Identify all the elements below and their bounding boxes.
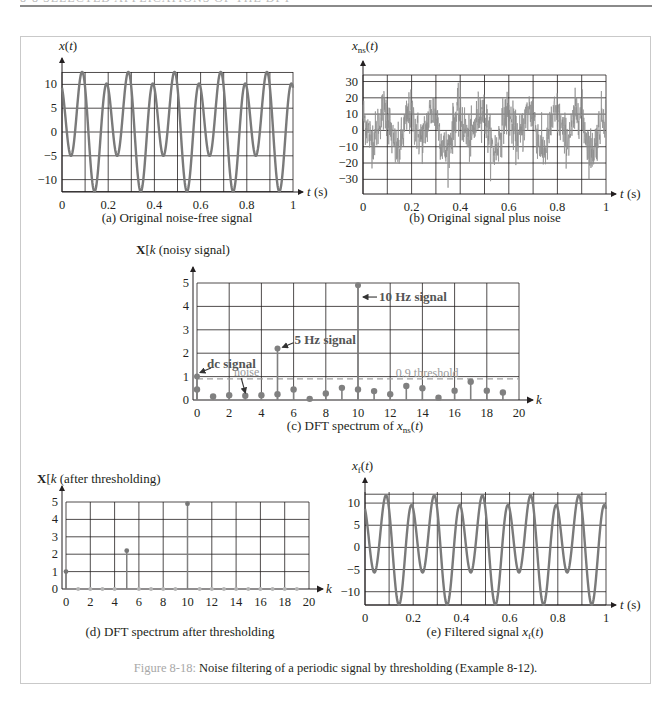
plot-caption: (d) DFT spectrum after thresholding — [86, 624, 275, 639]
x-axis-label: t (s) — [620, 186, 641, 201]
annotation-10hz-signal: 10 Hz signal — [379, 289, 447, 304]
y-tick-label: 2 — [183, 346, 189, 360]
y-axis-label: x(t) — [58, 38, 77, 53]
x-axis-label: k — [326, 581, 332, 596]
x-tick-label: 1 — [290, 198, 296, 212]
x-tick-label: 18 — [278, 595, 291, 609]
stem-marker — [124, 548, 129, 553]
x-tick-label: 16 — [448, 406, 461, 420]
noise-stem-marker — [451, 387, 457, 393]
noise-stem-marker — [403, 383, 409, 389]
plot-a-noise-free-signal: 00.20.40.60.811050−5−10t (s)x(t)(a) Orig… — [37, 38, 327, 225]
stem-marker — [198, 587, 202, 591]
x-tick-label: 4 — [258, 406, 265, 420]
x-tick-label: 0 — [194, 406, 200, 420]
y-tick-label: 0 — [183, 393, 189, 407]
y-axis-label: X[k (noisy signal) — [136, 242, 230, 257]
x-tick-label: 1 — [603, 200, 609, 214]
annotation-arrow — [283, 343, 294, 348]
noise-stem-marker — [274, 391, 280, 397]
x-tick-label: 2 — [226, 406, 232, 420]
plot-caption: (e) Filtered signal xf(t) — [427, 624, 544, 641]
y-tick-label: 3 — [52, 530, 58, 544]
signal-stem-marker — [194, 374, 200, 380]
noise-stem-marker — [355, 386, 361, 392]
plot-caption: (a) Original noise-free signal — [102, 210, 253, 225]
plot-e-filtered-signal: 00.20.40.60.811050−5−10t (s)xf(t)(e) Fil… — [340, 458, 640, 641]
stem-marker — [64, 569, 69, 574]
figure-8-18: 00.20.40.60.811050−5−10t (s)x(t)(a) Orig… — [0, 0, 671, 702]
y-tick-label: −20 — [338, 156, 358, 170]
y-tick-label: 1 — [183, 370, 189, 384]
y-tick-label: 30 — [346, 75, 359, 89]
noise-stem-marker — [226, 392, 232, 398]
x-tick-label: 20 — [513, 406, 526, 420]
stem-marker — [76, 587, 80, 591]
stem-marker — [88, 587, 92, 591]
stem-marker — [185, 501, 190, 506]
noise-stem-marker — [194, 386, 200, 392]
annotation-arrow — [241, 378, 245, 393]
y-tick-label: 5 — [51, 101, 57, 115]
stem-marker — [161, 587, 165, 591]
noise-stem-marker — [290, 386, 296, 392]
y-tick-label: −10 — [338, 140, 358, 154]
annotation-5hz-signal: 5 Hz signal — [295, 332, 357, 347]
y-tick-label: 4 — [52, 512, 59, 526]
noise-stem-marker — [258, 392, 264, 398]
y-tick-label: 10 — [348, 496, 361, 510]
y-tick-label: 0 — [51, 125, 57, 139]
x-axis-label: k — [536, 392, 542, 407]
x-axis-label: t (s) — [620, 597, 641, 612]
x-tick-label: 0 — [63, 595, 69, 609]
x-tick-label: 0 — [360, 200, 366, 214]
y-tick-label: −5 — [347, 563, 360, 577]
y-tick-label: −10 — [340, 585, 360, 599]
y-tick-label: 4 — [183, 299, 190, 313]
y-axis-label: X[k (after thresholding) — [37, 471, 160, 486]
x-tick-label: 14 — [230, 595, 243, 609]
y-tick-label: 1 — [52, 565, 58, 579]
stem-marker — [149, 587, 153, 591]
plot-d-dft-thresholded: 02468101214161820012345kX[k (after thres… — [37, 471, 332, 639]
noise-stem-marker — [468, 379, 474, 385]
noise-stem-marker — [339, 385, 345, 391]
stem-marker — [234, 587, 238, 591]
stem-marker — [113, 587, 117, 591]
y-tick-label: 3 — [183, 323, 189, 337]
y-tick-label: −30 — [338, 172, 358, 186]
figure-number: Figure 8-18: — [134, 661, 196, 675]
y-axis-label: xf(t) — [351, 458, 373, 475]
x-tick-label: 8 — [160, 595, 166, 609]
figure-caption: Figure 8-18: Noise filtering of a period… — [0, 661, 671, 676]
y-tick-label: 10 — [45, 77, 58, 91]
y-tick-label: −5 — [44, 149, 57, 163]
stem-marker — [246, 587, 250, 591]
noise-stem-marker — [307, 396, 313, 402]
noise-stem-marker — [371, 388, 377, 394]
plot-caption: (c) DFT spectrum of xns(t) — [287, 418, 423, 435]
stem-marker — [222, 587, 226, 591]
x-tick-label: 10 — [181, 595, 194, 609]
x-tick-label: 20 — [303, 595, 316, 609]
plot-c-dft-noisy: 02468101214161820012345kX[k (noisy signa… — [136, 242, 542, 435]
x-tick-label: 0 — [59, 198, 65, 212]
stem-marker — [100, 587, 104, 591]
noise-stem-marker — [484, 387, 490, 393]
y-tick-label: −10 — [37, 173, 57, 187]
y-tick-label: 20 — [346, 91, 359, 105]
stem-marker — [283, 587, 287, 591]
y-axis-label: xns(t) — [351, 38, 378, 55]
y-tick-label: 5 — [52, 495, 58, 509]
y-tick-label: 5 — [183, 276, 189, 290]
x-tick-label: 0.8 — [550, 611, 566, 625]
y-tick-label: 2 — [52, 547, 58, 561]
stem-marker — [271, 587, 275, 591]
x-axis-label: t (s) — [307, 184, 328, 199]
x-tick-label: 2 — [87, 595, 93, 609]
y-tick-label: 10 — [346, 107, 359, 121]
signal-stem-marker — [275, 346, 281, 352]
x-tick-label: 0.2 — [405, 611, 421, 625]
x-tick-label: 0 — [362, 611, 368, 625]
stem-marker — [173, 587, 177, 591]
